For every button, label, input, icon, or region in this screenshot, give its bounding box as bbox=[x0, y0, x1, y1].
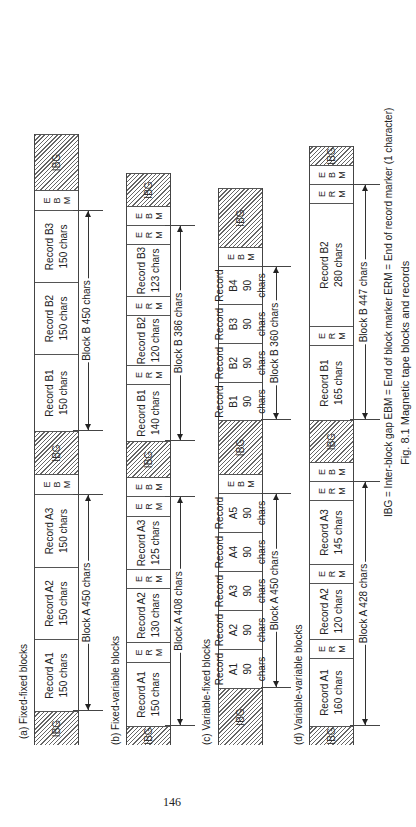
record-text: 90 chars bbox=[241, 494, 269, 532]
marker-letter: M bbox=[337, 332, 347, 340]
record-cell: Record B2120 chars bbox=[127, 315, 170, 365]
end-of-record-marker: ERM bbox=[127, 296, 170, 315]
record-text: 123 chars bbox=[149, 249, 163, 293]
end-of-record-marker: ERM bbox=[310, 639, 353, 658]
marker-letter: R bbox=[144, 372, 154, 379]
arrow-left-icon bbox=[273, 681, 279, 687]
record-text: Record A1 bbox=[43, 652, 57, 699]
record-text: Record B1 bbox=[43, 369, 57, 416]
block-size-dimension: Block B 360 chars bbox=[276, 266, 277, 420]
marker-letter: E bbox=[317, 488, 327, 494]
ibg-label: IBG bbox=[142, 181, 156, 198]
block-size-label: Block A 428 chars bbox=[358, 562, 369, 646]
ibg-label: IBG bbox=[50, 444, 64, 461]
record-text: A1 bbox=[227, 663, 241, 675]
record-text: Record B1 bbox=[318, 359, 332, 406]
end-of-block-marker: EBM bbox=[35, 190, 78, 210]
marker-letter: M bbox=[337, 171, 347, 179]
arrow-right-icon bbox=[273, 267, 279, 273]
ibg-label: IBG bbox=[142, 451, 156, 468]
block-size-dimension: Block B 447 chars bbox=[365, 184, 366, 420]
end-of-block-marker: EBM bbox=[127, 477, 170, 496]
record-cell: Record A2120 chars bbox=[310, 583, 353, 639]
block-size-label: Block B 360 chars bbox=[269, 301, 280, 386]
arrow-right-icon bbox=[85, 211, 91, 217]
arrow-left-icon bbox=[362, 413, 368, 419]
tape-strip-fixed-variable: IBGRecord A1150 charsERMRecord A2130 cha… bbox=[126, 173, 171, 745]
record-text: A2 bbox=[227, 624, 241, 636]
marker-letter: R bbox=[144, 303, 154, 310]
marker-letter: M bbox=[154, 503, 164, 511]
record-text: 145 chars bbox=[332, 511, 346, 555]
inter-block-gap: IBG bbox=[219, 420, 262, 474]
block-size-label: Block A 408 chars bbox=[173, 569, 184, 653]
ibg-label: IBG bbox=[234, 708, 248, 725]
end-of-block-marker: EBM bbox=[219, 474, 262, 493]
record-text: 90 chars bbox=[241, 267, 269, 304]
tick-mark bbox=[350, 725, 380, 726]
marker-letter: E bbox=[226, 481, 236, 487]
record-text: Record bbox=[213, 497, 227, 529]
page-number: 146 bbox=[163, 795, 181, 810]
arrow-right-icon bbox=[362, 482, 368, 488]
section-c-label: (c) Variable-fixed blocks bbox=[201, 639, 212, 745]
record-text: A3 bbox=[227, 585, 241, 597]
record-text: Record A1 bbox=[135, 671, 149, 718]
record-text: Record bbox=[213, 347, 227, 379]
record-text: Record bbox=[213, 536, 227, 568]
record-text: Record bbox=[213, 308, 227, 340]
record-text: 150 chars bbox=[149, 673, 163, 717]
marker-letter: M bbox=[154, 371, 164, 379]
block-size-label: Block A 450 chars bbox=[81, 561, 92, 645]
tick-mark bbox=[165, 440, 195, 441]
record-text: 90 chars bbox=[241, 572, 269, 610]
record-cell: Record A3125 chars bbox=[127, 516, 170, 569]
block-size-dimension: Block B 450 chars bbox=[88, 210, 89, 431]
marker-letter: R bbox=[327, 191, 337, 198]
end-of-block-marker: EBM bbox=[219, 247, 262, 266]
record-text: 150 chars bbox=[57, 654, 71, 698]
marker-letter: E bbox=[134, 213, 144, 219]
arrow-right-icon bbox=[273, 494, 279, 500]
end-of-block-marker: EBM bbox=[310, 462, 353, 481]
marker-letter: R bbox=[327, 646, 337, 653]
block-size-label: Block B 450 chars bbox=[81, 278, 92, 363]
inter-block-gap: IBG bbox=[310, 146, 353, 165]
record-cell: RecordB290 chars bbox=[219, 343, 262, 382]
record-text: 90 chars bbox=[241, 533, 269, 571]
marker-letter: M bbox=[246, 480, 256, 488]
record-text: 150 chars bbox=[57, 297, 71, 341]
record-text: Record A1 bbox=[318, 669, 332, 716]
inter-block-gap: IBG bbox=[219, 188, 262, 247]
record-cell: RecordB390 chars bbox=[219, 304, 262, 343]
arrow-right-icon bbox=[85, 495, 91, 501]
arrow-left-icon bbox=[85, 424, 91, 430]
marker-letter: M bbox=[337, 645, 347, 653]
marker-letter: M bbox=[62, 197, 72, 205]
record-text: Record B1 bbox=[135, 389, 149, 436]
record-text: B2 bbox=[227, 357, 241, 369]
marker-letter: M bbox=[154, 302, 164, 310]
record-text: B3 bbox=[227, 318, 241, 330]
marker-letter: B bbox=[144, 213, 154, 219]
end-of-record-marker: ERM bbox=[310, 564, 353, 583]
inter-block-gap: IBG bbox=[35, 134, 78, 190]
record-cell: Record A1150 chars bbox=[127, 662, 170, 726]
inter-block-gap: IBG bbox=[35, 431, 78, 474]
marker-letter: B bbox=[327, 172, 337, 178]
tick-mark bbox=[73, 710, 103, 711]
end-of-record-marker: ERM bbox=[127, 496, 170, 516]
tick-mark bbox=[261, 687, 291, 688]
record-cell: Record B1150 chars bbox=[35, 354, 78, 431]
record-text: 90 chars bbox=[241, 344, 269, 382]
record-cell: Record A2130 chars bbox=[127, 588, 170, 642]
record-cell: RecordA290 chars bbox=[219, 610, 262, 649]
inter-block-gap: IBG bbox=[310, 726, 353, 745]
record-text: 165 chars bbox=[332, 361, 346, 405]
marker-letter: B bbox=[52, 198, 62, 204]
figure-caption: Fig. 8.1 Magnetic tape blocks and record… bbox=[399, 261, 411, 465]
marker-letter: E bbox=[134, 576, 144, 582]
record-text: A4 bbox=[227, 546, 241, 558]
record-cell: Record A1150 chars bbox=[35, 639, 78, 711]
record-cell: Record B1140 chars bbox=[127, 384, 170, 441]
